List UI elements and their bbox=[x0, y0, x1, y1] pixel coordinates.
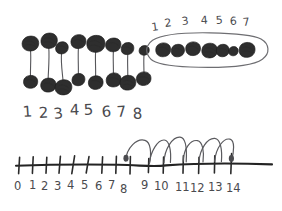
pair-label-5: 5 bbox=[83, 101, 93, 119]
pair-label-3: 3 bbox=[53, 104, 64, 123]
axis-label-12: 12 bbox=[190, 181, 205, 195]
group-label-6: 6 bbox=[229, 15, 237, 28]
axis-label-4: 4 bbox=[67, 178, 74, 192]
group-count-labels: 1 2 3 4 5 6 7 bbox=[151, 14, 251, 34]
pair-label-4: 4 bbox=[70, 101, 80, 119]
number-line-tick-labels: 0 1 2 3 4 5 6 7 8 9 10 11 12 13 14 bbox=[14, 178, 241, 196]
group-label-1: 1 bbox=[151, 20, 160, 34]
group-label-7: 7 bbox=[242, 15, 250, 29]
axis-label-7: 7 bbox=[108, 178, 115, 192]
pair-label-7: 7 bbox=[116, 102, 127, 121]
axis-label-5: 5 bbox=[81, 178, 88, 192]
axis-label-8: 8 bbox=[120, 182, 127, 196]
group-label-2: 2 bbox=[164, 16, 173, 30]
axis-label-14: 14 bbox=[226, 181, 241, 195]
text-layer: 1 2 3 4 5 6 7 8 1 2 3 4 5 6 7 0 1 2 3 4 … bbox=[0, 0, 282, 211]
axis-label-3: 3 bbox=[54, 179, 61, 193]
group-label-3: 3 bbox=[181, 14, 189, 28]
pair-number-labels: 1 2 3 4 5 6 7 8 bbox=[22, 101, 143, 123]
group-label-4: 4 bbox=[200, 14, 208, 27]
axis-label-2: 2 bbox=[41, 179, 48, 193]
axis-label-13: 13 bbox=[208, 180, 223, 194]
axis-label-0: 0 bbox=[14, 179, 21, 193]
pair-label-6: 6 bbox=[101, 102, 112, 121]
axis-label-9: 9 bbox=[141, 178, 148, 192]
pair-label-2: 2 bbox=[38, 104, 48, 122]
pair-label-1: 1 bbox=[22, 102, 33, 121]
axis-label-10: 10 bbox=[154, 179, 169, 193]
worksheet-canvas: 1 2 3 4 5 6 7 8 1 2 3 4 5 6 7 0 1 2 3 4 … bbox=[0, 0, 282, 211]
pair-label-8: 8 bbox=[132, 105, 142, 123]
axis-label-6: 6 bbox=[95, 179, 102, 193]
group-label-5: 5 bbox=[215, 14, 223, 27]
axis-label-1: 1 bbox=[29, 178, 36, 192]
axis-label-11: 11 bbox=[175, 180, 190, 194]
